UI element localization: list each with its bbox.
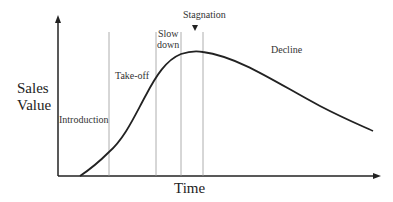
stage-label-decline: Decline [271,44,302,55]
stagnation-arrow-icon [192,25,198,31]
stage-label-introduction: Introduction [59,114,108,125]
x-axis-label: Time [174,180,205,197]
stage-label-slowdown-line1: Slow [158,28,179,39]
stage-label-stagnation: Stagnation [183,9,226,20]
x-axis-arrow-icon [373,173,381,179]
stage-label-slowdown-line2: down [157,39,179,50]
y-axis-label-line2: Value [17,97,51,114]
y-axis-arrow-icon [55,15,61,23]
y-axis-label-line1: Sales [17,80,49,97]
product-lifecycle-diagram [0,0,393,202]
stage-label-takeoff: Take-off [115,70,149,81]
